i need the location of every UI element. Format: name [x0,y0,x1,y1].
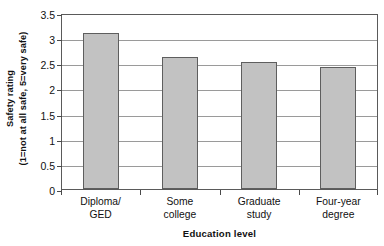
x-tick-label-line: college [140,209,219,222]
x-tick-label-line: Four-year [299,196,378,209]
x-axis-tick-labels: Diploma/GEDSomecollegeGraduatestudyFour-… [61,196,378,221]
x-tick-label-line: Some [140,196,219,209]
y-axis-title: Safety rating (1=not at all safe, 5=very… [0,0,34,196]
x-tick-mark [299,190,300,195]
y-tick-label: 1 [49,135,55,147]
bar[interactable] [83,33,119,189]
x-tick-label-line: GED [61,209,140,222]
y-tick-label: 0.5 [40,160,55,172]
x-tick-label: Graduatestudy [220,196,299,221]
y-tick-label: 3 [49,34,55,46]
y-tick-label: 2.5 [40,59,55,71]
x-tick-label: Four-yeardegree [299,196,378,221]
x-axis-title: Education level [61,228,378,239]
x-tick-mark [377,190,378,195]
x-tick-label-line: Diploma/ [61,196,140,209]
bar[interactable] [241,62,277,189]
y-tick-label: 0 [49,185,55,197]
bar-slot [220,15,299,189]
bar[interactable] [162,57,198,189]
bar-slot [141,15,220,189]
x-tick-mark [140,190,141,195]
y-axis-title-line2: (1=not at all safe, 5=very safe) [17,31,30,165]
x-tick-label-line: degree [299,209,378,222]
y-tick-label: 2 [49,84,55,96]
x-tick-mark [61,190,62,195]
bar-slot [62,15,141,189]
x-tick-label: Somecollege [140,196,219,221]
x-tick-label: Diploma/GED [61,196,140,221]
bar-chart-figure: Safety rating (1=not at all safe, 5=very… [0,0,384,246]
y-axis-title-line1: Safety rating [5,31,18,165]
plot-area: 00.511.522.533.5 [61,14,378,190]
y-tick-label: 3.5 [40,9,55,21]
bar-slot [298,15,377,189]
x-tick-mark [220,190,221,195]
x-tick-label-line: Graduate [220,196,299,209]
x-tick-label-line: study [220,209,299,222]
bar-series [62,15,377,189]
y-tick-label: 1.5 [40,110,55,122]
bar[interactable] [320,67,356,189]
